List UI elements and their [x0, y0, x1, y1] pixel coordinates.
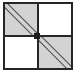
grid-cell-bottom-left-label: [5, 37, 6, 38]
grid-cell-bottom-left: [5, 36, 38, 68]
grid-cell-top-left-label: [5, 4, 6, 5]
grid-center-node: [34, 33, 40, 39]
figure-caption: [0, 0, 1, 1]
grid-cell-top-right-label: [39, 4, 40, 5]
grid-cell-bottom-right: [38, 36, 71, 68]
grid-cell-top-right: [38, 4, 71, 36]
grid-cell-top-left: [5, 4, 38, 36]
figure-root: [0, 0, 76, 73]
